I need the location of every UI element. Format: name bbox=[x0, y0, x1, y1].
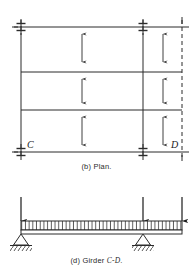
column-label-c: C bbox=[27, 139, 34, 150]
column-label-d: D bbox=[170, 139, 179, 150]
pin-support-left bbox=[10, 234, 32, 251]
girder-caption-prefix: (d) bbox=[70, 256, 80, 265]
plan-grid-lines-vertical bbox=[21, 20, 182, 158]
girder-caption-word: Girder bbox=[82, 256, 104, 265]
girder-caption-member: C-D bbox=[107, 256, 121, 265]
plan-beam-lines-horizontal bbox=[12, 27, 189, 152]
girder-diagram bbox=[0, 188, 193, 258]
girder-beam bbox=[21, 230, 182, 234]
plan-load-direction-arrows bbox=[82, 34, 163, 145]
girder-caption: (d) Girder C-D. bbox=[0, 256, 193, 265]
plan-caption: (b) Plan. bbox=[0, 162, 193, 171]
uniform-load-band bbox=[21, 221, 182, 230]
plan-diagram: C D bbox=[0, 0, 193, 162]
girder-point-loads bbox=[21, 197, 182, 221]
girder-caption-period: . bbox=[120, 256, 122, 265]
plan-column-symbols bbox=[14, 17, 182, 161]
girder-member bbox=[21, 221, 182, 234]
pin-support-right bbox=[132, 234, 154, 251]
structural-figure: C D (b) Plan. bbox=[0, 0, 193, 274]
girder-supports bbox=[10, 234, 154, 251]
